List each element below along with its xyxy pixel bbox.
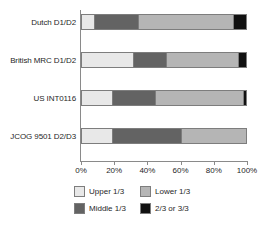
bar-row: British MRC D1/D2 [0,48,267,86]
stacked-bar [81,128,247,144]
legend-swatch-icon [74,203,85,214]
x-axis-tick-label: 0% [66,166,96,176]
bar-segment-middle-1-3 [112,91,156,105]
legend-label: 2/3 or 3/3 [155,204,189,214]
bar-segment-middle-1-3 [133,53,167,67]
legend-swatch-icon [140,203,151,214]
category-label: US INT0116 [0,94,76,104]
bar-segment-2-3-or-3-3 [238,53,246,67]
bar-segment-upper-1-3 [82,53,134,67]
legend-item-lower-1-3: Lower 1/3 [140,186,190,197]
legend-item-middle-1-3: Middle 1/3 [74,203,126,214]
x-axis-tick-label: 60% [166,166,196,176]
legend-swatch-icon [74,186,85,197]
stacked-bar-chart: Dutch D1/D2 British MRC D1/D2 [0,0,267,226]
x-axis-tick-mark [147,161,148,165]
x-axis-tick-mark [181,161,182,165]
x-axis-tick-label: 40% [132,166,162,176]
bar-segment-lower-1-3 [181,129,246,143]
bar-segment-upper-1-3 [82,91,113,105]
stacked-bar [81,90,247,106]
legend-swatch-icon [140,186,151,197]
bar-segment-lower-1-3 [166,53,239,67]
category-label: British MRC D1/D2 [0,56,76,66]
legend-item-upper-1-3: Upper 1/3 [74,186,124,197]
x-axis-tick-mark [114,161,115,165]
bar-row: JCOG 9501 D2/D3 [0,124,267,162]
legend-label: Upper 1/3 [89,187,124,197]
x-axis-tick-mark [81,161,82,165]
bar-segment-middle-1-3 [94,15,139,29]
bar-row: Dutch D1/D2 [0,10,267,48]
x-axis-tick-label: 80% [199,166,229,176]
legend-label: Lower 1/3 [155,187,190,197]
legend-item-2-3-or-3-3: 2/3 or 3/3 [140,203,189,214]
x-axis-ticks: 0%20%40%60%80%100% [0,161,267,177]
plot-area: Dutch D1/D2 British MRC D1/D2 [0,0,267,168]
category-label: JCOG 9501 D2/D3 [0,132,76,142]
x-axis-tick-mark [214,161,215,165]
category-label: Dutch D1/D2 [0,18,76,28]
stacked-bar [81,52,247,68]
x-axis-tick-label: 100% [232,166,262,176]
legend-label: Middle 1/3 [89,204,126,214]
bar-segment-upper-1-3 [82,129,113,143]
bar-segment-2-3-or-3-3 [243,91,246,105]
bar-row: US INT0116 [0,86,267,124]
bar-segment-lower-1-3 [155,91,244,105]
bar-segment-2-3-or-3-3 [233,15,245,29]
chart-legend: Upper 1/3 Lower 1/3 Middle 1/3 2/3 or 3/… [74,186,204,220]
bar-rows: Dutch D1/D2 British MRC D1/D2 [0,10,267,162]
stacked-bar [81,14,247,30]
x-axis-tick-mark [247,161,248,165]
bar-segment-lower-1-3 [138,15,234,29]
bar-segment-middle-1-3 [112,129,182,143]
x-axis-tick-label: 20% [99,166,129,176]
